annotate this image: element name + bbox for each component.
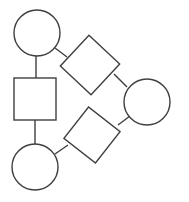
node-circle-right[interactable] [124, 79, 170, 125]
node-circle-top-left[interactable] [14, 10, 60, 56]
node-square-middle-left[interactable] [14, 78, 56, 120]
node-link-diagram [0, 0, 189, 202]
node-circle-bottom-left[interactable] [12, 144, 58, 190]
